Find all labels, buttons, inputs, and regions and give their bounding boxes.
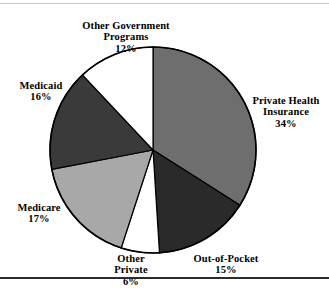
pie-label-name-private-health-insurance: Private Health Insurance (252, 95, 319, 118)
pie-label-name-medicare: Medicare (17, 202, 60, 213)
pie-label-private-health-insurance: Private Health Insurance 34% (243, 83, 329, 141)
pie-label-medicare: Medicare 17% (0, 190, 78, 236)
pie-label-percent-other-government-programs: 12% (58, 43, 194, 55)
pie-label-out-of-pocket: Out-of-Pocket 15% (174, 241, 278, 287)
pie-label-name-other-private: Other Private (114, 253, 147, 276)
pie-label-medicaid: Medicaid 16% (2, 68, 80, 114)
pie-label-name-medicaid: Medicaid (20, 80, 63, 91)
pie-chart-figure: Other Government Programs 12% Private He… (0, 0, 329, 290)
pie-slice-group (50, 47, 256, 253)
pie-label-percent-out-of-pocket: 15% (174, 264, 278, 276)
pie-label-name-other-government-programs: Other Government Programs (82, 20, 169, 43)
pie-label-other-private: Other Private 6% (95, 241, 167, 290)
pie-label-percent-private-health-insurance: 34% (243, 118, 329, 130)
bottom-divider-rule (0, 277, 329, 279)
pie-label-other-government-programs: Other Government Programs 12% (58, 8, 194, 66)
pie-label-name-out-of-pocket: Out-of-Pocket (194, 253, 259, 264)
pie-label-percent-medicare: 17% (0, 213, 78, 225)
pie-label-percent-medicaid: 16% (2, 91, 80, 103)
